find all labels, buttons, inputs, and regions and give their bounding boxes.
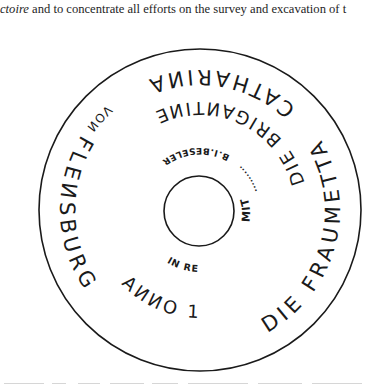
inner-ring-maker: B.I.BESELER bbox=[160, 146, 231, 168]
outer-ring-text-3: VOИ bbox=[83, 103, 115, 136]
inscription-figure: DIE FRAUMETTA CATHARIИA VOИ FLEИSBURG DI… bbox=[0, 0, 378, 387]
inner-ring-dots-1: ········· bbox=[236, 162, 260, 193]
outer-ring-text-4: FLEИSBURG bbox=[55, 132, 103, 296]
outer-circle bbox=[39, 49, 361, 371]
inner-ring-place: IN RENDSBURG bbox=[0, 0, 199, 274]
center-hole bbox=[164, 176, 234, 246]
cut-off-text-line bbox=[0, 383, 378, 387]
inner-ring-mit: MIT bbox=[238, 196, 253, 222]
